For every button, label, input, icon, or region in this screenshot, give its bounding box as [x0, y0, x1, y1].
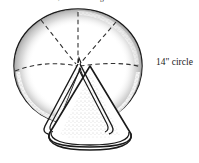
- circle-size-label: 14" circle: [156, 57, 193, 68]
- label-leader: [143, 64, 152, 66]
- line-art-illustration: [0, 0, 199, 163]
- illustration-figure: round, cut into wedges: [0, 0, 199, 163]
